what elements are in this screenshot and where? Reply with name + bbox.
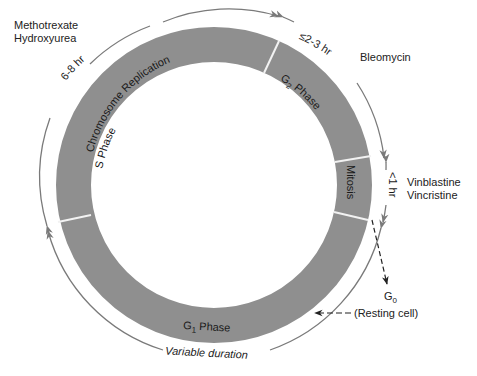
drug-hydroxyurea: Hydroxyurea bbox=[14, 32, 78, 45]
cell-cycle-ring bbox=[58, 41, 371, 326]
g1-duration: Variable duration bbox=[165, 344, 248, 360]
g0-label: G0 bbox=[384, 290, 397, 307]
drug-bleomycin: Bleomycin bbox=[360, 51, 411, 64]
mitosis-drugs: Vinblastine Vincristine bbox=[407, 176, 461, 202]
resting-cell-label: (Resting cell) bbox=[354, 307, 418, 320]
s-phase-duration: 6-8 hr bbox=[58, 52, 87, 82]
drug-vinblastine: Vinblastine bbox=[407, 176, 461, 189]
mitosis-arc-end bbox=[383, 205, 386, 222]
s-phase-arc-lower bbox=[40, 118, 50, 226]
g2-duration-prefix: ≤2-3 hr bbox=[298, 30, 335, 58]
g2-arc-start bbox=[283, 17, 294, 22]
mitosis-duration: <1 hr bbox=[387, 172, 399, 198]
drug-methotrexate: Methotrexate bbox=[14, 19, 78, 32]
g0-exit-arrow bbox=[372, 220, 387, 284]
g2-phase-drugs: Bleomycin bbox=[360, 51, 411, 64]
s-phase-drugs: Methotrexate Hydroxyurea bbox=[14, 19, 78, 45]
mitosis-label: Mitosis bbox=[345, 165, 357, 200]
drug-vincristine: Vincristine bbox=[407, 189, 461, 202]
s-phase-arc-upper bbox=[163, 9, 278, 22]
